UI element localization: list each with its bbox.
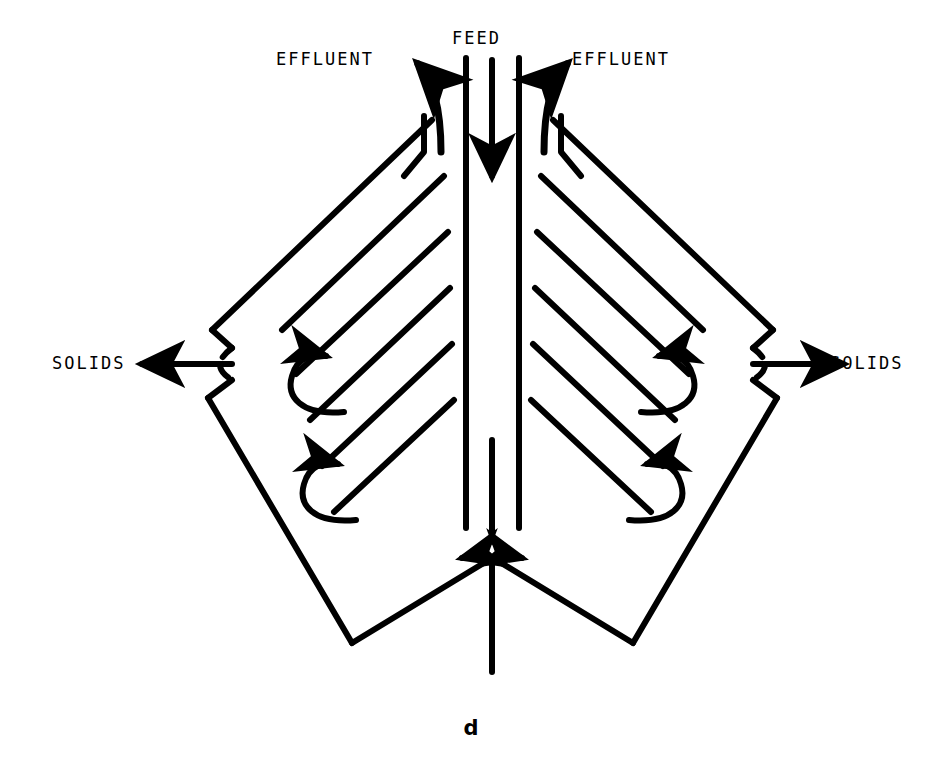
right-recirculation-arrows xyxy=(629,355,694,521)
clarifier-schematic xyxy=(0,0,942,782)
left-recirc-arrow-2 xyxy=(303,463,356,521)
left-baffle-4 xyxy=(322,344,452,466)
left-baffle-3 xyxy=(310,288,450,420)
left-upper-wall xyxy=(212,120,432,330)
left-screen-top-stub xyxy=(212,330,232,348)
right-baffle-3 xyxy=(535,288,675,420)
left-baffle-1 xyxy=(282,176,444,330)
right-screen-top-stub xyxy=(753,330,773,348)
right-baffles xyxy=(531,176,703,512)
right-recirc-arrow-1 xyxy=(641,355,694,413)
left-baffle-5 xyxy=(334,400,454,512)
right-upper-wall xyxy=(553,120,773,330)
feed-split-arrow-left xyxy=(462,538,492,558)
left-chamber xyxy=(142,64,492,643)
right-screen-bottom-stub xyxy=(753,380,777,398)
feed-split-arrow-right xyxy=(492,538,522,558)
figure-panel-d: EFFLUENT EFFLUENT FEED SOLIDS SOLIDS d xyxy=(0,0,942,782)
left-floor xyxy=(352,558,492,643)
right-recirc-arrow-2 xyxy=(629,463,682,521)
left-baffles xyxy=(282,176,454,512)
label-effluent-right: EFFLUENT xyxy=(572,51,670,68)
panel-label: d xyxy=(0,718,942,739)
label-feed: FEED xyxy=(452,30,501,47)
right-baffle-5 xyxy=(531,400,651,512)
right-baffle-4 xyxy=(533,344,663,466)
left-recirculation-arrows xyxy=(291,355,356,521)
feed-split-fork xyxy=(462,440,522,558)
label-solids-left: SOLIDS xyxy=(52,355,125,372)
right-baffle-1 xyxy=(541,176,703,330)
label-solids-right: SOLIDS xyxy=(830,355,903,372)
left-screen-bottom-stub xyxy=(208,380,232,398)
label-effluent-left: EFFLUENT xyxy=(276,51,374,68)
left-recirc-arrow-1 xyxy=(291,355,344,413)
right-chamber xyxy=(493,64,843,643)
right-floor xyxy=(493,558,633,643)
